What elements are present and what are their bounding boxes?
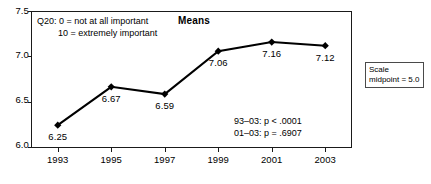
x-tick-mark — [111, 148, 112, 152]
x-tick-mark — [58, 148, 59, 152]
x-tick-mark — [165, 148, 166, 152]
x-tick-label: 2003 — [303, 154, 347, 165]
x-tick-label: 1995 — [89, 154, 133, 165]
x-tick-label: 1997 — [143, 154, 187, 165]
data-point-label: 7.16 — [249, 48, 295, 59]
x-tick-mark — [325, 148, 326, 152]
data-point-label: 7.06 — [195, 57, 241, 68]
scale-midpoint-box: Scale midpoint = 5.0 — [365, 62, 424, 88]
data-point-label: 6.59 — [142, 100, 188, 111]
data-point-marker — [322, 42, 329, 49]
data-point-label: 7.12 — [302, 52, 348, 63]
scale-midpoint-line-1: Scale — [369, 65, 420, 75]
data-point-marker — [268, 38, 275, 45]
scale-midpoint-line-2: midpoint = 5.0 — [369, 75, 420, 85]
x-tick-label: 1999 — [196, 154, 240, 165]
data-point-label: 6.25 — [35, 131, 81, 142]
x-tick-label: 1993 — [36, 154, 80, 165]
data-point-label: 6.67 — [88, 93, 134, 104]
x-tick-mark — [218, 148, 219, 152]
x-tick-label: 2001 — [250, 154, 294, 165]
chart-figure: 7.5 7.0 6.5 6.0 Q20: 0 = not at all impo… — [0, 0, 431, 184]
x-tick-mark — [272, 148, 273, 152]
